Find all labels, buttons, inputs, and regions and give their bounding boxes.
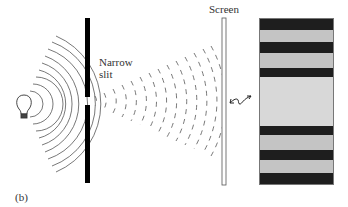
double-arrow-icon <box>230 96 251 104</box>
fringe-band-dark <box>260 68 333 77</box>
fringe-band-light <box>260 53 333 68</box>
slit-label: Narrow slit <box>99 56 133 80</box>
fringe-band-central-bright <box>260 77 333 126</box>
slit-label-line2: slit <box>99 68 133 80</box>
fringe-band-light <box>260 135 333 150</box>
light-bulb-icon <box>17 95 32 118</box>
slit-label-line1: Narrow <box>99 56 133 68</box>
fringe-band-dark <box>260 19 333 30</box>
screen <box>222 18 226 185</box>
panel-label: (b) <box>15 191 28 203</box>
barrier-lower <box>85 105 90 183</box>
fringe-band-light <box>260 30 333 42</box>
diffraction-diagram: Narrow slit Screen (b) <box>0 0 348 207</box>
barrier-upper <box>85 18 90 97</box>
fringe-band-dark <box>260 150 333 160</box>
diffraction-pattern <box>259 18 334 185</box>
fringe-band-light <box>260 160 333 173</box>
fringe-band-dark <box>260 173 333 185</box>
incident-waves <box>30 36 101 172</box>
fringe-band-dark <box>260 126 333 135</box>
fringe-band-dark <box>260 42 333 53</box>
screen-label: Screen <box>209 3 239 15</box>
